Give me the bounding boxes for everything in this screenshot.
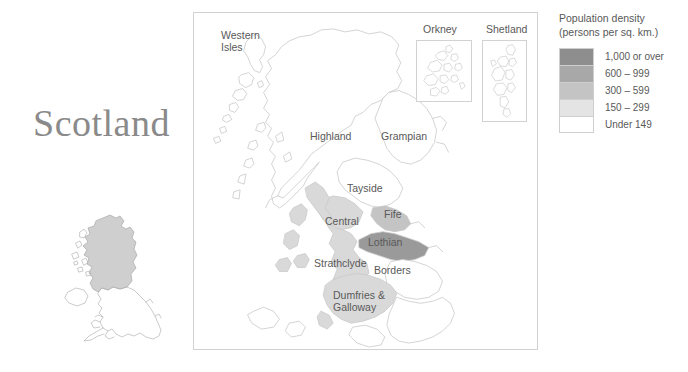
inset-label-shetland: Shetland — [486, 23, 527, 35]
uk-locator-svg — [58, 210, 166, 342]
region-fife — [371, 206, 411, 232]
legend-swatch — [559, 48, 594, 65]
legend-row[interactable]: 150 – 299 — [559, 99, 684, 116]
orkney-svg — [417, 41, 471, 101]
legend: Population density (persons per sq. km.)… — [559, 12, 684, 133]
legend-row[interactable]: 300 – 599 — [559, 82, 684, 99]
legend-label: 150 – 299 — [605, 102, 650, 113]
legend-swatch — [559, 116, 594, 133]
main-map-frame: Orkney Shetland Western Isles Highland G… — [193, 12, 538, 350]
legend-row[interactable]: 600 – 999 — [559, 65, 684, 82]
legend-label: 600 – 999 — [605, 68, 650, 79]
shetland-svg — [483, 41, 526, 121]
legend-label: 1,000 or over — [605, 51, 664, 62]
legend-rows: 1,000 or over 600 – 999 300 – 599 150 – … — [559, 48, 684, 133]
legend-swatch — [559, 99, 594, 116]
legend-swatch — [559, 65, 594, 82]
inset-label-orkney: Orkney — [423, 23, 457, 35]
uk-locator-map — [58, 210, 166, 342]
legend-label: 300 – 599 — [605, 85, 650, 96]
legend-title-line1: Population density — [559, 12, 684, 26]
page-title: Scotland — [33, 104, 170, 142]
legend-title-line2: (persons per sq. km.) — [559, 26, 684, 40]
map-figure: Scotland — [0, 0, 688, 372]
inset-orkney-box — [416, 40, 472, 102]
locator-scotland-shape — [83, 215, 137, 292]
region-lothian — [359, 232, 429, 262]
legend-row[interactable]: 1,000 or over — [559, 48, 684, 65]
legend-title: Population density (persons per sq. km.) — [559, 12, 684, 39]
region-dumfries-and-galloway — [317, 273, 397, 329]
legend-label: Under 149 — [605, 119, 652, 130]
legend-swatch — [559, 82, 594, 99]
legend-row[interactable]: Under 149 — [559, 116, 684, 133]
inset-shetland-box — [482, 40, 527, 122]
